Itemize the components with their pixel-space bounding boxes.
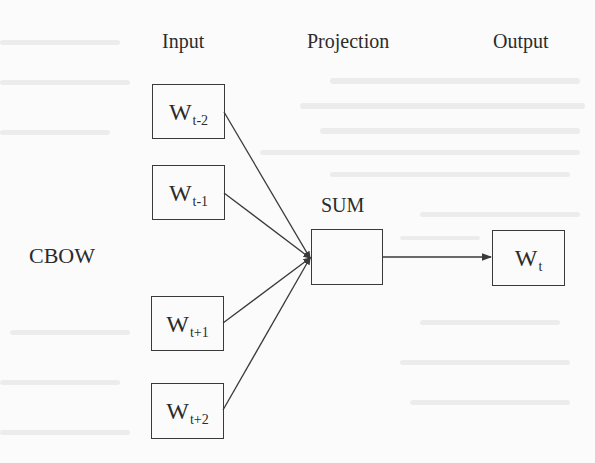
edge-wt-2-to-sum — [224, 112, 310, 258]
node-label: Wt+2 — [166, 399, 208, 423]
edge-wt-1-to-sum — [224, 193, 310, 258]
output-node-wt: Wt — [492, 230, 565, 286]
input-node-wt+1: Wt+1 — [151, 296, 224, 351]
edge-wt+2-to-sum — [223, 258, 310, 410]
node-label: Wt-1 — [169, 181, 208, 205]
node-label: Wt-2 — [169, 100, 208, 124]
projection-sum-node — [311, 229, 383, 285]
node-label: Wt — [515, 246, 543, 270]
input-node-wt-2: Wt-2 — [152, 84, 225, 139]
input-node-wt+2: Wt+2 — [151, 383, 224, 439]
edge-wt+1-to-sum — [223, 258, 310, 323]
cbow-diagram: Input Projection Output CBOW SUM Wt-2 Wt… — [0, 0, 595, 463]
node-label: Wt+1 — [166, 312, 208, 336]
input-node-wt-1: Wt-1 — [152, 165, 225, 220]
